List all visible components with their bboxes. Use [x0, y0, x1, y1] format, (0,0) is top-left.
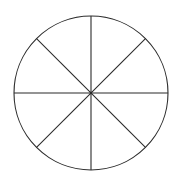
fraction-circle-svg — [0, 0, 182, 183]
fraction-circle-figure — [0, 0, 182, 183]
center-point — [90, 92, 92, 94]
